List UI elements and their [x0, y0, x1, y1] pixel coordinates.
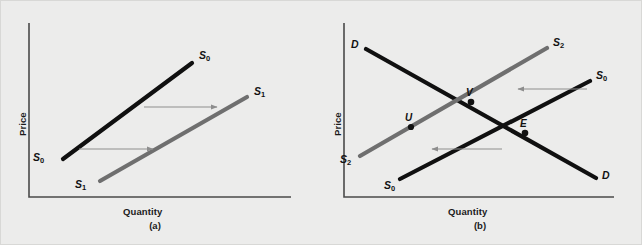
economics-supply-demand-figure: Price S0 S0 S1 [0, 0, 642, 245]
panel-a-x-axis-label: Quantity [123, 206, 162, 217]
panel-b: Price D [322, 1, 642, 245]
panel-a-label-s1-end: S1 [254, 85, 265, 99]
panel-b-point-u-label: U [405, 112, 412, 123]
panel-b-label-demand-end: D [602, 169, 610, 183]
panel-b-point-v-marker [468, 99, 475, 106]
panel-a: Price S0 S0 S1 [1, 1, 322, 245]
panel-b-curve-s2 [360, 48, 547, 156]
panel-b-curve-s0 [400, 81, 590, 179]
panel-b-caption: (b) [460, 220, 500, 231]
panel-b-label-demand-start: D [351, 38, 359, 52]
panel-b-point-u-marker [408, 124, 414, 130]
panel-b-label-s2-start: S2 [340, 153, 351, 167]
panel-b-label-s2-end: S2 [553, 36, 564, 50]
panel-b-point-e-label: E [520, 118, 527, 129]
panel-a-label-s1-start: S1 [75, 178, 86, 192]
panel-a-curve-s0 [63, 63, 192, 159]
panel-b-label-s0-start: S0 [384, 179, 395, 193]
panel-b-point-e-marker [522, 130, 529, 137]
panel-a-caption: (a) [135, 220, 175, 231]
panel-a-label-s0-start: S0 [33, 151, 44, 165]
panel-b-point-v-label: V [466, 87, 473, 98]
panel-b-label-s0-end: S0 [596, 69, 607, 83]
panel-a-axes [29, 23, 291, 197]
panel-b-x-axis-label: Quantity [448, 206, 487, 217]
panel-a-label-s0-end: S0 [199, 49, 210, 63]
panel-b-curve-demand [366, 49, 596, 178]
panel-a-curve-s1 [100, 97, 247, 181]
